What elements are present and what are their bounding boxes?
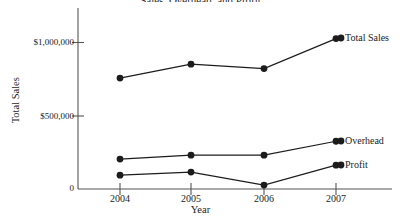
data-point [117,172,124,179]
legend-marker [338,35,345,42]
data-point [188,61,195,68]
legend-marker [338,162,345,169]
series-line [120,39,336,78]
y-tick-label-1000000: $1,000,000 [34,38,75,47]
data-point [117,156,124,163]
x-tick-label-2005: 2005 [169,194,213,204]
series-overhead [117,138,345,163]
x-tick-label-2006: 2006 [242,194,286,204]
data-point [261,152,268,159]
data-point [261,182,268,189]
x-tick-label-2004: 2004 [98,194,142,204]
x-axis-title: Year [0,205,401,216]
series-line [120,141,336,159]
x-tick-label-2007: 2007 [314,194,358,204]
chart-plot-area [0,0,401,218]
data-point [188,152,195,159]
series-label-total-sales: Total Sales [345,33,389,43]
data-point [117,75,124,82]
series-layer [117,35,345,189]
series-label-overhead: Overhead [345,136,384,146]
series-profit [117,162,345,189]
line-chart: Sales, Overhead, and Profit $1,000,000 $… [0,0,401,218]
y-tick-label-500000: $500,000 [40,112,74,121]
series-label-profit: Profit [345,160,368,170]
legend-marker [338,138,345,145]
y-axis-title: Total Sales [11,68,22,132]
series-total-sales [117,35,345,82]
data-point [188,169,195,176]
y-tick-label-0: 0 [70,184,75,193]
series-line [120,165,336,185]
data-point [261,65,268,72]
